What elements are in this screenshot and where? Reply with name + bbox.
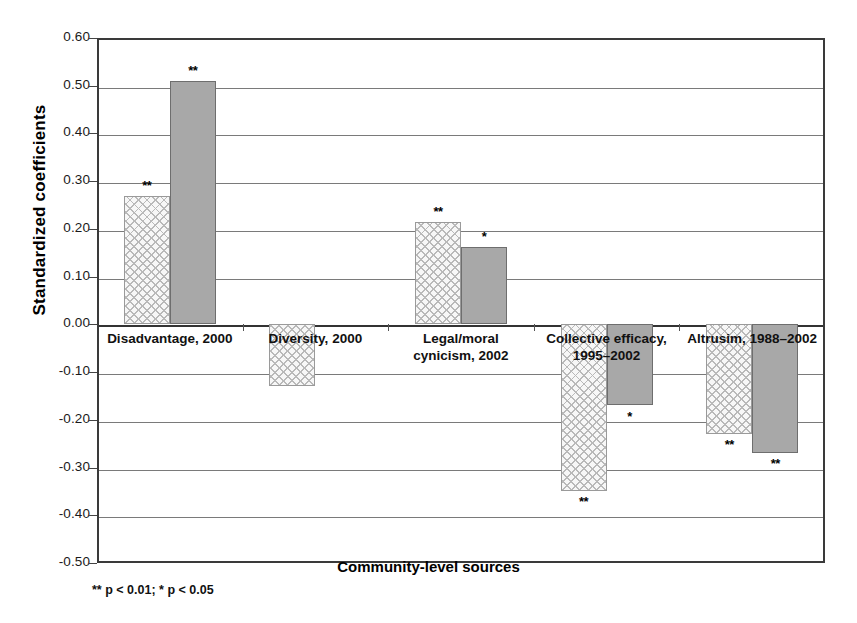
x-axis-category-label: Altrusim, 1988–2002 xyxy=(673,330,831,347)
significance-marker: * xyxy=(461,230,507,243)
y-axis-tick-label: -0.40 xyxy=(38,506,90,521)
x-axis-category-label-line: Diversity, 2000 xyxy=(237,330,395,347)
y-axis-tick-label: 0.00 xyxy=(38,315,90,330)
y-axis-tick-label: 0.10 xyxy=(38,268,90,283)
y-axis-tick-label: -0.10 xyxy=(38,363,90,378)
bar-homicide-2 xyxy=(415,222,461,325)
x-axis-category-label-line: cynicism, 2002 xyxy=(382,347,540,364)
y-axis-tick-mark xyxy=(89,468,97,469)
x-axis-title: Community-level sources xyxy=(0,558,857,575)
x-axis-category-label-line: Disadvantage, 2000 xyxy=(91,330,249,347)
y-axis-tick-mark xyxy=(89,420,97,421)
y-axis-tick-label: 0.50 xyxy=(38,77,90,92)
y-axis-tick-mark xyxy=(89,229,97,230)
significance-marker: ** xyxy=(415,205,461,218)
y-axis-tick-mark xyxy=(89,133,97,134)
y-axis-tick-mark xyxy=(89,181,97,182)
x-axis-category-label-line: Legal/moral xyxy=(382,330,540,347)
significance-marker: ** xyxy=(170,64,216,77)
y-axis-tick-mark xyxy=(89,515,97,516)
x-axis-category-label-line: Collective efficacy, xyxy=(528,330,686,347)
significance-marker: ** xyxy=(124,179,170,192)
y-axis-tick-mark xyxy=(89,277,97,278)
x-axis-category-label: Disadvantage, 2000 xyxy=(91,330,249,347)
y-axis-tick-mark xyxy=(89,86,97,87)
significance-marker: ** xyxy=(561,495,607,508)
significance-marker: * xyxy=(607,410,653,423)
y-axis-tick-label: 0.30 xyxy=(38,172,90,187)
y-axis-tick-label: 0.20 xyxy=(38,220,90,235)
bar-homicide-0 xyxy=(124,196,170,325)
bar-teen-0 xyxy=(170,81,216,324)
x-axis-category-label: Collective efficacy,1995–2002 xyxy=(528,330,686,364)
y-axis-tick-label: -0.20 xyxy=(38,411,90,426)
y-axis-tick-label: -0.50 xyxy=(38,554,90,569)
significance-footnote: ** p < 0.01; * p < 0.05 xyxy=(92,583,214,597)
x-axis-category-label: Diversity, 2000 xyxy=(237,330,395,347)
y-axis-tick-mark xyxy=(89,38,97,39)
y-axis-tick-label: 0.40 xyxy=(38,124,90,139)
gridline xyxy=(99,470,823,471)
y-axis-tick-mark xyxy=(89,324,97,325)
y-axis-tick-mark xyxy=(89,563,97,564)
x-axis-category-label-line: Altrusim, 1988–2002 xyxy=(673,330,831,347)
chart-figure: Standardized coefficients Homicide rate,… xyxy=(0,0,857,623)
x-axis-category-label: Legal/moralcynicism, 2002 xyxy=(382,330,540,364)
y-axis-tick-mark xyxy=(89,372,97,373)
x-axis-category-label-line: 1995–2002 xyxy=(528,347,686,364)
gridline xyxy=(99,517,823,518)
significance-marker: ** xyxy=(706,438,752,451)
bar-teen-2 xyxy=(461,247,507,325)
y-axis-tick-label: -0.30 xyxy=(38,459,90,474)
y-axis-tick-label: 0.60 xyxy=(38,29,90,44)
significance-marker: ** xyxy=(752,457,798,470)
